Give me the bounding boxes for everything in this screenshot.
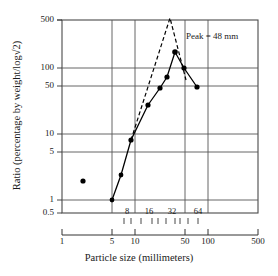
x-gridlines [112,20,208,213]
x-tick-label-100: 100 [193,236,223,246]
y-tick-label-100: 100 [20,62,54,72]
y-tick-label-1: 1 [20,194,54,204]
x-inner-tick-label-64: 64 [188,206,208,216]
x-tick-label-10: 10 [120,236,150,246]
x-tick-label-1: 1 [47,236,77,246]
series-isolated-point-marker [80,178,85,183]
y-axis-title: Ratio (percentage by weight/log√2) [11,16,22,216]
y-tick-label-50: 50 [20,80,54,90]
chart-plot-area [0,0,278,276]
x-inner-tick-label-8: 8 [117,206,137,216]
series-measured-line [112,52,197,200]
x-tick-label-500: 500 [243,236,273,246]
x-inner-tick-marks [124,218,198,224]
x-axis-title: Particle size (millimeters) [0,252,278,263]
x-inner-tick-label-32: 32 [162,206,182,216]
y-tick-marks [57,20,62,213]
y-tick-label-0.5: 0.5 [20,207,54,217]
x-inner-tick-label-16: 16 [139,206,159,216]
chart-figure: Ratio (percentage by weight/log√2) Parti… [0,0,278,276]
peak-annotation: Peak = 48 mm [186,31,238,41]
plot-frame [62,20,258,213]
y-tick-label-10: 10 [20,128,54,138]
y-tick-label-500: 500 [20,14,54,24]
y-tick-label-5: 5 [20,146,54,156]
